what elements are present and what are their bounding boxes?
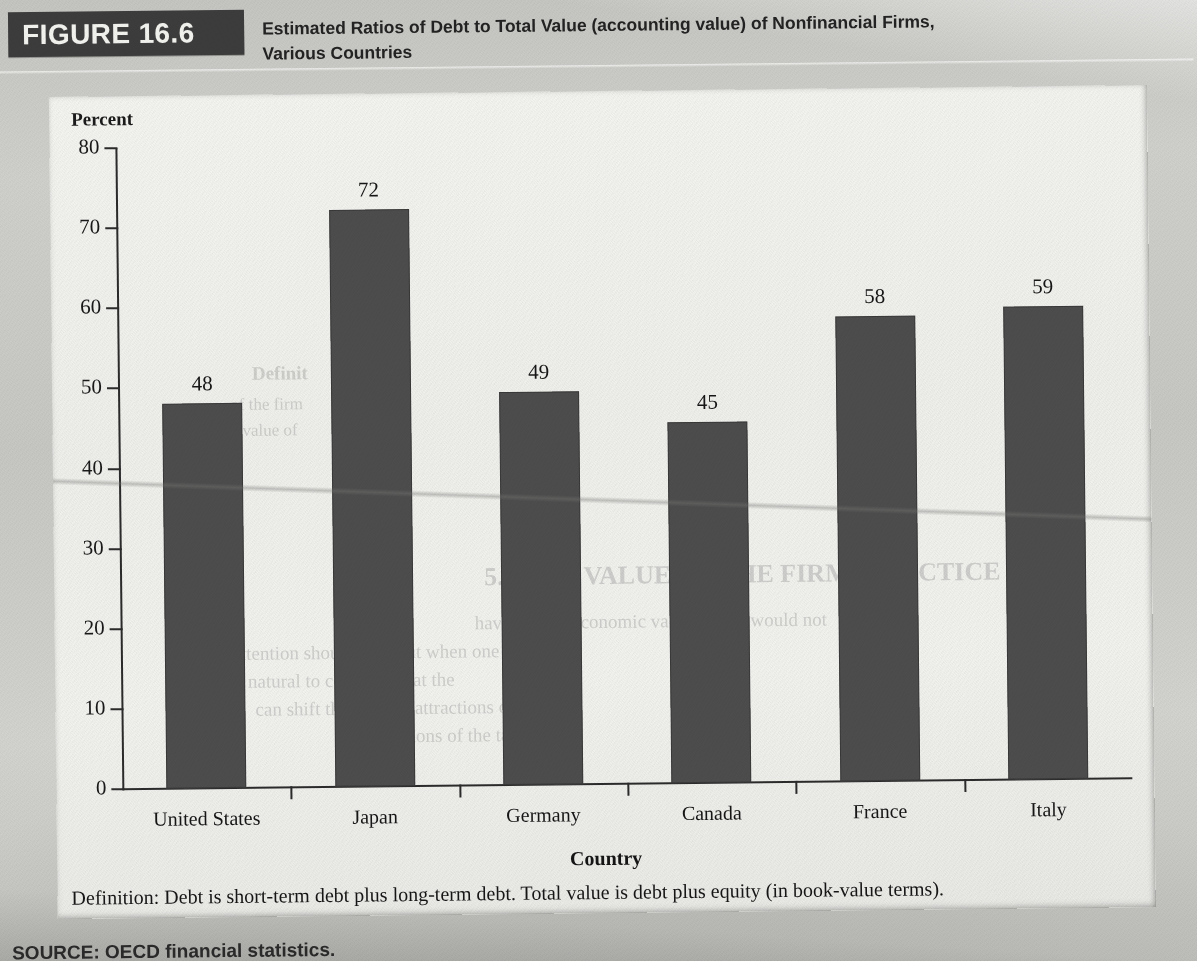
chart-panel: Definit of the firm value of 5.1 THE VAL… — [49, 85, 1156, 919]
y-tick-label-60: 60 — [55, 295, 101, 320]
y-tick-label-40: 40 — [57, 455, 103, 480]
bar-canada — [668, 422, 752, 783]
bar-united-states — [162, 403, 246, 788]
y-axis-tick-labels: 80706050403020100 — [49, 96, 108, 918]
bar-value-label-4: 58 — [824, 284, 924, 310]
y-tick-40 — [108, 468, 121, 470]
bar-value-label-5: 59 — [993, 274, 1093, 300]
source-text: SOURCE: OECD financial statistics. — [12, 939, 335, 961]
x-tick-1 — [291, 786, 293, 799]
y-tick-30 — [109, 548, 122, 550]
y-tick-20 — [110, 628, 123, 630]
x-tick-3 — [627, 783, 629, 796]
y-tick-label-30: 30 — [58, 535, 104, 560]
y-tick-label-10: 10 — [59, 695, 105, 720]
figure-container: FIGURE 16.6 Estimated Ratios of Debt to … — [0, 0, 1197, 961]
y-tick-label-70: 70 — [54, 215, 100, 240]
bar-value-label-3: 45 — [657, 390, 757, 416]
x-tick-4 — [796, 781, 798, 794]
x-axis-category-labels: United StatesJapanGermanyCanadaFranceIta… — [49, 85, 1147, 97]
y-tick-label-50: 50 — [56, 375, 102, 400]
x-axis-ticks — [49, 85, 1147, 97]
y-tick-10 — [110, 708, 123, 710]
source-note: SOURCE: OECD financial statistics. — [12, 939, 335, 961]
bar-japan — [329, 209, 415, 787]
y-axis-ticks — [49, 85, 1147, 97]
y-tick-label-0: 0 — [60, 775, 106, 800]
y-tick-label-80: 80 — [53, 134, 99, 159]
figure-number-badge: FIGURE 16.6 — [8, 10, 244, 58]
bar-value-label-0: 48 — [152, 371, 252, 397]
bar-italy — [1003, 306, 1088, 780]
category-label-italy: Italy — [948, 797, 1148, 822]
bar-value-label-2: 49 — [489, 359, 589, 385]
page-background: FIGURE 16.6 Estimated Ratios of Debt to … — [0, 0, 1197, 961]
x-tick-2 — [459, 785, 461, 798]
bar-germany — [499, 392, 583, 785]
figure-title: Estimated Ratios of Debt to Total Value … — [262, 8, 1092, 67]
definition-note: Definition: Debt is short-term debt plus… — [71, 875, 1141, 910]
y-tick-60 — [106, 307, 119, 309]
bar-chart: Percent 80706050403020100 487249455859 U… — [49, 85, 1156, 919]
figure-number-label: FIGURE 16.6 — [8, 17, 195, 51]
x-axis-title: Country — [57, 841, 1155, 876]
y-tick-50 — [107, 388, 120, 390]
x-tick-5 — [964, 779, 966, 792]
bar-france — [835, 316, 920, 782]
bar-series: 487249455859 — [49, 85, 1147, 97]
y-tick-70 — [105, 227, 118, 229]
bar-value-label-1: 72 — [318, 177, 418, 203]
y-tick-80 — [104, 147, 117, 149]
y-tick-label-20: 20 — [58, 615, 104, 640]
